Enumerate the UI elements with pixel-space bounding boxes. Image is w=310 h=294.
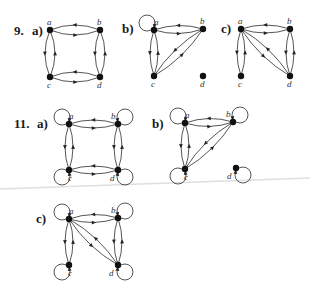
graph-9-c: abcd bbox=[235, 16, 296, 89]
arrowhead-icon bbox=[207, 116, 211, 120]
vertex-b bbox=[200, 26, 206, 32]
arrowhead-icon bbox=[292, 50, 296, 54]
vertex-label: b bbox=[111, 111, 116, 121]
arrowhead-icon bbox=[91, 164, 95, 168]
arrowhead-icon bbox=[243, 50, 247, 54]
arrowhead-icon bbox=[63, 240, 67, 244]
arrowhead-icon bbox=[92, 126, 96, 130]
vertex-label: c bbox=[68, 173, 72, 183]
directed-edge bbox=[241, 29, 290, 76]
arrowhead-icon bbox=[71, 145, 75, 149]
vertex-a bbox=[238, 26, 244, 32]
arrowhead-icon bbox=[103, 51, 107, 55]
arrowhead-icon bbox=[92, 172, 96, 176]
vertex-label: b bbox=[97, 17, 102, 27]
directed-edge bbox=[154, 29, 203, 76]
vertex-label: d bbox=[227, 171, 232, 181]
vertex-b bbox=[97, 27, 103, 33]
digraph-figure: abcdabcdabcdabcdabcdabcd bbox=[0, 0, 310, 294]
directed-edge bbox=[69, 219, 118, 265]
arrowhead-icon bbox=[73, 23, 77, 27]
vertex-a bbox=[182, 120, 188, 126]
arrowhead-icon bbox=[263, 23, 267, 27]
vertex-label: c bbox=[68, 268, 72, 278]
problem-number: 9. bbox=[14, 24, 24, 37]
arrowhead-icon bbox=[91, 118, 95, 122]
arrowhead-icon bbox=[176, 23, 180, 27]
arrowhead-icon bbox=[53, 51, 57, 55]
vertex-label: c bbox=[184, 172, 188, 182]
vertex-a bbox=[151, 27, 157, 33]
arrowhead-icon bbox=[177, 32, 181, 36]
vertex-label: c bbox=[47, 80, 51, 90]
arrowhead-icon bbox=[148, 51, 152, 55]
part-label: b) bbox=[152, 117, 164, 130]
vertex-label: c bbox=[238, 79, 242, 89]
vertex-label: b bbox=[226, 109, 231, 119]
part-label: c) bbox=[221, 22, 231, 35]
arrowhead-icon bbox=[73, 80, 77, 84]
vertex-label: a bbox=[47, 17, 52, 27]
arrowhead-icon bbox=[179, 144, 183, 148]
vertex-label: b bbox=[287, 16, 292, 26]
arrowhead-icon bbox=[73, 70, 77, 74]
vertex-b bbox=[115, 121, 121, 127]
arrowhead-icon bbox=[156, 51, 160, 55]
vertex-label: b bbox=[111, 205, 116, 215]
vertex-label: c bbox=[151, 79, 155, 89]
vertex-d bbox=[115, 262, 121, 268]
arrowhead-icon bbox=[112, 240, 116, 244]
arrowhead-icon bbox=[91, 212, 95, 216]
vertex-label: d bbox=[109, 268, 114, 278]
vertex-label: b bbox=[200, 16, 205, 26]
arrowhead-icon bbox=[187, 144, 191, 148]
arrowhead-icon bbox=[71, 240, 75, 244]
vertex-label: d bbox=[97, 80, 102, 90]
vertex-label: d bbox=[287, 79, 292, 89]
directed-edge bbox=[185, 122, 233, 169]
vertex-a bbox=[66, 121, 72, 127]
vertex-label: a bbox=[69, 206, 74, 216]
part-label: a) bbox=[37, 117, 48, 130]
part-label: a) bbox=[32, 24, 43, 37]
directed-edge bbox=[185, 122, 233, 169]
arrowhead-icon bbox=[284, 51, 288, 55]
vertex-label: a bbox=[154, 17, 159, 27]
scan-artifact-line bbox=[0, 178, 310, 189]
arrowhead-icon bbox=[73, 33, 77, 37]
arrowhead-icon bbox=[63, 145, 67, 149]
arrowhead-icon bbox=[112, 145, 116, 149]
arrowhead-icon bbox=[235, 51, 239, 55]
vertex-d bbox=[115, 167, 121, 173]
arrowhead-icon bbox=[43, 52, 47, 56]
problem-number: 11. bbox=[14, 117, 30, 130]
part-label: c) bbox=[36, 212, 46, 225]
directed-edge bbox=[241, 29, 290, 76]
directed-edge bbox=[69, 219, 118, 265]
vertex-label: a bbox=[69, 111, 74, 121]
graph-9-a: abcd bbox=[43, 17, 107, 90]
graph-11-b: abcd bbox=[170, 107, 251, 184]
arrowhead-icon bbox=[92, 221, 96, 225]
vertex-label: a bbox=[238, 16, 243, 26]
vertex-d bbox=[233, 165, 239, 171]
vertex-a bbox=[47, 27, 53, 33]
arrowhead-icon bbox=[120, 145, 124, 149]
graph-9-b: abcd bbox=[139, 15, 206, 89]
vertex-b bbox=[230, 119, 236, 125]
arrowhead-icon bbox=[207, 125, 211, 129]
arrowhead-icon bbox=[93, 52, 97, 56]
vertex-label: a bbox=[185, 110, 190, 120]
graph-11-c: abcd bbox=[54, 203, 133, 280]
part-label: b) bbox=[122, 22, 134, 35]
vertex-label: d bbox=[200, 79, 205, 89]
graph-11-a: abcd bbox=[54, 109, 133, 185]
vertex-b bbox=[287, 26, 293, 32]
vertex-label: d bbox=[110, 173, 115, 183]
vertex-b bbox=[115, 215, 121, 221]
arrowhead-icon bbox=[120, 239, 124, 243]
arrowhead-icon bbox=[264, 31, 268, 35]
directed-edge bbox=[154, 29, 203, 76]
vertex-a bbox=[66, 216, 72, 222]
